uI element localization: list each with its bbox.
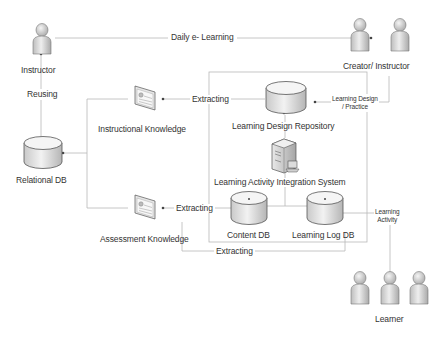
architecture-diagram: Instructor Creator/ Instructor Daily e- …: [0, 0, 445, 340]
learner-person-icon-3: [407, 270, 431, 306]
learning-log-db-icon: [305, 189, 345, 227]
assessment-knowledge-label: Assessment Knowledge: [100, 235, 189, 244]
reusing-label: Reusing: [27, 89, 58, 100]
instructor-label: Instructor: [21, 66, 55, 75]
creator-person-icon: [348, 17, 372, 53]
extracting-instructional-label: Extracting: [190, 95, 231, 104]
relational-db-icon: [22, 135, 64, 171]
extracting-assessment-label: Extracting: [174, 204, 215, 213]
learner-label: Learner: [375, 315, 404, 324]
instructor-person-icon-2: [388, 17, 412, 53]
assessment-knowledge-document-icon: [133, 193, 159, 221]
learning-log-db-label: Learning Log DB: [292, 231, 354, 240]
instructional-knowledge-document-icon: [133, 84, 159, 112]
content-db-icon: [229, 189, 269, 227]
integration-system-label: Learning Activity Integration System: [214, 178, 346, 187]
learner-person-icon-1: [348, 270, 372, 306]
integration-server-icon: [268, 138, 302, 174]
content-db-label: Content DB: [227, 231, 270, 240]
relational-db-label: Relational DB: [16, 176, 67, 185]
learning-activity-line1: Learning: [375, 208, 400, 216]
learning-design-practice-label: Learning Design / Practice: [331, 94, 379, 112]
learning-design-repository-label: Learning Design Repository: [232, 122, 334, 131]
learner-person-icon-2: [378, 270, 402, 306]
instructional-knowledge-label: Instructional Knowledge: [98, 125, 186, 134]
instructor-person-icon: [30, 22, 54, 56]
daily-elearning-label: Daily e- Learning: [168, 33, 237, 42]
extracting-log-label: Extracting: [214, 247, 255, 256]
creator-instructor-label: Creator/ Instructor: [343, 62, 410, 71]
learning-design-practice-line2: / Practice: [332, 103, 378, 111]
learning-activity-label: Learning Activity: [374, 207, 401, 225]
learning-design-practice-line1: Learning Design: [332, 95, 378, 103]
learning-design-repository-icon: [264, 80, 308, 116]
learning-activity-line2: Activity: [375, 216, 400, 224]
